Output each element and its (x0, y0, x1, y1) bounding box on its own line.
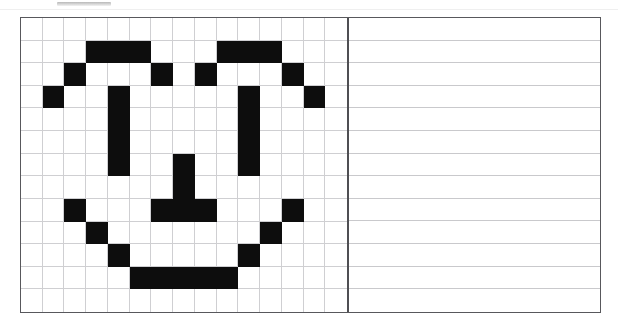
grid-cell-empty[interactable] (64, 154, 86, 177)
grid-cell-empty[interactable] (86, 176, 108, 199)
grid-cell-filled[interactable] (130, 41, 152, 64)
grid-cell-empty[interactable] (151, 289, 173, 312)
grid-cell-empty[interactable] (325, 108, 347, 131)
ruled-line-row[interactable] (349, 63, 600, 86)
grid-cell-filled[interactable] (173, 267, 195, 290)
grid-cell-empty[interactable] (282, 41, 304, 64)
grid-cell-empty[interactable] (282, 108, 304, 131)
grid-cell-empty[interactable] (304, 176, 326, 199)
grid-cell-empty[interactable] (151, 18, 173, 41)
grid-cell-empty[interactable] (217, 154, 239, 177)
grid-cell-empty[interactable] (43, 176, 65, 199)
grid-cell-empty[interactable] (325, 267, 347, 290)
grid-cell-filled[interactable] (260, 41, 282, 64)
grid-cell-empty[interactable] (130, 289, 152, 312)
grid-cell-empty[interactable] (260, 244, 282, 267)
grid-cell-filled[interactable] (238, 154, 260, 177)
grid-cell-filled[interactable] (151, 267, 173, 290)
grid-cell-empty[interactable] (130, 63, 152, 86)
grid-cell-empty[interactable] (260, 63, 282, 86)
ruled-line-row[interactable] (349, 289, 600, 312)
grid-cell-empty[interactable] (130, 18, 152, 41)
ruled-lines-panel[interactable] (349, 18, 600, 312)
grid-cell-empty[interactable] (304, 222, 326, 245)
grid-cell-empty[interactable] (108, 199, 130, 222)
grid-cell-empty[interactable] (21, 199, 43, 222)
grid-cell-empty[interactable] (21, 18, 43, 41)
grid-cell-empty[interactable] (43, 267, 65, 290)
grid-cell-empty[interactable] (217, 131, 239, 154)
grid-cell-empty[interactable] (108, 63, 130, 86)
ruled-line-row[interactable] (349, 131, 600, 154)
grid-cell-empty[interactable] (108, 222, 130, 245)
grid-cell-empty[interactable] (43, 244, 65, 267)
grid-cell-empty[interactable] (64, 222, 86, 245)
grid-cell-filled[interactable] (108, 244, 130, 267)
grid-cell-filled[interactable] (108, 154, 130, 177)
grid-cell-empty[interactable] (304, 154, 326, 177)
grid-cell-empty[interactable] (325, 199, 347, 222)
grid-cell-empty[interactable] (108, 289, 130, 312)
ruled-line-row[interactable] (349, 18, 600, 41)
pixel-grid[interactable] (21, 18, 347, 312)
grid-cell-empty[interactable] (238, 18, 260, 41)
grid-cell-empty[interactable] (260, 289, 282, 312)
ruled-line-row[interactable] (349, 221, 600, 244)
grid-cell-empty[interactable] (21, 63, 43, 86)
grid-cell-empty[interactable] (151, 154, 173, 177)
grid-cell-empty[interactable] (151, 108, 173, 131)
grid-cell-filled[interactable] (195, 267, 217, 290)
grid-cell-empty[interactable] (64, 176, 86, 199)
grid-cell-empty[interactable] (195, 108, 217, 131)
grid-cell-empty[interactable] (173, 289, 195, 312)
grid-cell-empty[interactable] (260, 154, 282, 177)
grid-cell-filled[interactable] (108, 41, 130, 64)
grid-cell-empty[interactable] (64, 86, 86, 109)
grid-cell-empty[interactable] (43, 222, 65, 245)
grid-cell-empty[interactable] (21, 176, 43, 199)
grid-cell-empty[interactable] (238, 63, 260, 86)
grid-cell-empty[interactable] (325, 18, 347, 41)
grid-cell-empty[interactable] (21, 222, 43, 245)
grid-cell-empty[interactable] (43, 289, 65, 312)
grid-cell-filled[interactable] (260, 222, 282, 245)
grid-cell-empty[interactable] (238, 289, 260, 312)
grid-cell-empty[interactable] (304, 18, 326, 41)
grid-cell-filled[interactable] (108, 86, 130, 109)
grid-cell-filled[interactable] (238, 131, 260, 154)
grid-cell-empty[interactable] (173, 63, 195, 86)
grid-cell-empty[interactable] (86, 267, 108, 290)
grid-cell-empty[interactable] (238, 176, 260, 199)
grid-cell-empty[interactable] (86, 154, 108, 177)
grid-cell-empty[interactable] (64, 18, 86, 41)
grid-cell-empty[interactable] (130, 199, 152, 222)
grid-cell-empty[interactable] (86, 18, 108, 41)
grid-cell-empty[interactable] (151, 131, 173, 154)
grid-cell-empty[interactable] (217, 63, 239, 86)
grid-cell-empty[interactable] (21, 244, 43, 267)
grid-cell-empty[interactable] (173, 244, 195, 267)
grid-cell-empty[interactable] (217, 289, 239, 312)
grid-cell-empty[interactable] (282, 244, 304, 267)
grid-cell-empty[interactable] (282, 289, 304, 312)
grid-cell-filled[interactable] (64, 199, 86, 222)
grid-cell-filled[interactable] (238, 41, 260, 64)
grid-cell-empty[interactable] (217, 222, 239, 245)
grid-cell-empty[interactable] (282, 267, 304, 290)
grid-cell-empty[interactable] (217, 86, 239, 109)
grid-cell-filled[interactable] (43, 86, 65, 109)
grid-cell-empty[interactable] (43, 131, 65, 154)
grid-cell-empty[interactable] (21, 267, 43, 290)
top-toolbar-fragment[interactable] (57, 2, 111, 6)
grid-cell-empty[interactable] (195, 41, 217, 64)
grid-cell-empty[interactable] (86, 108, 108, 131)
grid-cell-empty[interactable] (195, 222, 217, 245)
grid-cell-empty[interactable] (195, 176, 217, 199)
grid-cell-empty[interactable] (325, 176, 347, 199)
grid-cell-empty[interactable] (21, 289, 43, 312)
grid-cell-empty[interactable] (260, 86, 282, 109)
ruled-line-row[interactable] (349, 267, 600, 290)
grid-cell-empty[interactable] (86, 244, 108, 267)
grid-cell-empty[interactable] (86, 199, 108, 222)
grid-cell-empty[interactable] (282, 131, 304, 154)
